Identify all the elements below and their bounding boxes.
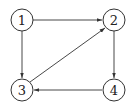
node-label: 4 [110, 83, 118, 98]
node-2: 2 [103, 9, 125, 31]
node-1: 1 [11, 9, 33, 31]
node-label: 3 [18, 83, 26, 98]
directed-graph: 1 2 3 4 [0, 0, 134, 108]
node-label: 2 [110, 13, 118, 28]
node-4: 4 [103, 79, 125, 101]
node-label: 1 [18, 13, 26, 28]
edges [22, 20, 114, 90]
node-3: 3 [11, 79, 33, 101]
edge-3-to-2 [30, 28, 105, 82]
